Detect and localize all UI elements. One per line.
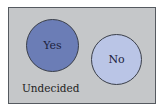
set-no-label: No: [108, 53, 124, 66]
universe-label: Undecided: [22, 82, 79, 94]
set-yes-circle: Yes: [26, 19, 79, 72]
set-yes-label: Yes: [43, 39, 61, 52]
set-no-circle: No: [91, 34, 142, 85]
